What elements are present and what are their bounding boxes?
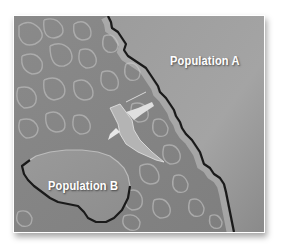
population-a-label: Population A	[170, 53, 240, 68]
figure-panel: Population A Population B	[14, 16, 264, 232]
population-b-label: Population B	[48, 178, 118, 193]
map-illustration	[14, 16, 264, 232]
